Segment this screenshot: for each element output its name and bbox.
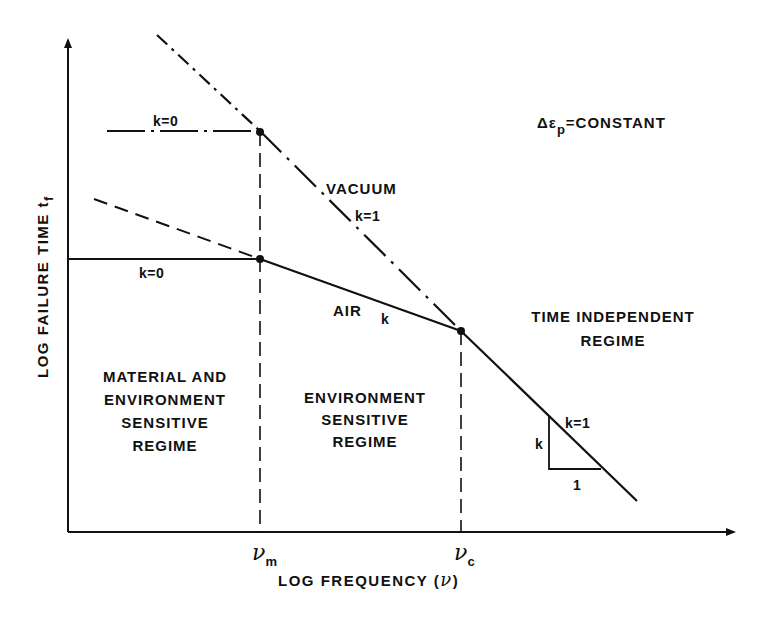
diagram-canvas: k=0 k=0 VACUUM k=1 AIR k Δεp=CONSTANT MA…	[0, 0, 766, 622]
svg-text:SENSITIVE: SENSITIVE	[121, 414, 208, 431]
svg-text:TIME INDEPENDENT: TIME INDEPENDENT	[531, 308, 695, 325]
vacuum-transition-point	[256, 128, 264, 136]
material-environment-regime-label: MATERIAL AND ENVIRONMENT SENSITIVE REGIM…	[103, 368, 227, 454]
vacuum-slope-line	[260, 131, 461, 331]
nu-c-tick-label: νc	[454, 540, 475, 569]
svg-text:SENSITIVE: SENSITIVE	[321, 411, 408, 428]
critical-frequency-point	[457, 327, 465, 335]
triangle-line-label: k=1	[565, 415, 590, 431]
vacuum-slope-label: k=1	[355, 208, 380, 224]
triangle-run-label: 1	[573, 477, 581, 493]
nu-m-tick-label: νm	[252, 540, 277, 569]
triangle-rise-label: k	[535, 436, 543, 452]
y-axis-label: LOG FAILURE TIME tf	[34, 195, 56, 378]
air-plateau-label: k=0	[139, 265, 164, 281]
failure-time-vs-frequency-diagram: k=0 k=0 VACUUM k=1 AIR k Δεp=CONSTANT MA…	[0, 0, 766, 622]
air-slope-line	[260, 259, 461, 331]
svg-text:MATERIAL AND: MATERIAL AND	[103, 368, 227, 385]
air-label: AIR	[333, 302, 362, 319]
svg-text:ENVIRONMENT: ENVIRONMENT	[304, 389, 426, 406]
condition-label: Δεp=CONSTANT	[537, 114, 666, 137]
x-axis-label: LOG FREQUENCY (ν)	[278, 569, 459, 590]
air-transition-point	[256, 255, 264, 263]
svg-text:REGIME: REGIME	[332, 433, 397, 450]
environment-regime-label: ENVIRONMENT SENSITIVE REGIME	[304, 389, 426, 450]
time-independent-regime-label: TIME INDEPENDENT REGIME	[531, 308, 695, 349]
air-dashed-extension	[94, 199, 260, 259]
svg-text:REGIME: REGIME	[580, 332, 645, 349]
svg-text:REGIME: REGIME	[132, 437, 197, 454]
vacuum-plateau-label: k=0	[153, 113, 178, 129]
air-slope-label: k	[381, 311, 389, 327]
svg-text:ENVIRONMENT: ENVIRONMENT	[104, 391, 226, 408]
vacuum-label: VACUUM	[326, 180, 397, 197]
